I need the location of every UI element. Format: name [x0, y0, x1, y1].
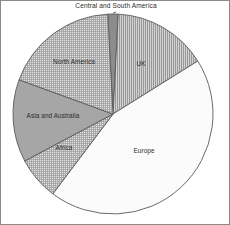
pie-chart-figure: UKEuropeAfricaAsia and AustraliaNorth Am… — [0, 0, 230, 225]
pie-slice-label-africa: Africa — [56, 144, 73, 151]
chart-title: Central and South America — [75, 2, 157, 9]
pie-slice-label-uk: UK — [136, 60, 146, 67]
pie-slice-label-north-america: North America — [53, 58, 95, 65]
pie-chart-canvas: UKEuropeAfricaAsia and AustraliaNorth Am… — [1, 1, 230, 225]
pie-leader-line — [113, 12, 116, 13]
pie-leader-line-group — [113, 12, 116, 13]
pie-slice-label-europe: Europe — [133, 147, 155, 155]
pie-slice-label-asia-and-australia: Asia and Australia — [27, 112, 80, 119]
